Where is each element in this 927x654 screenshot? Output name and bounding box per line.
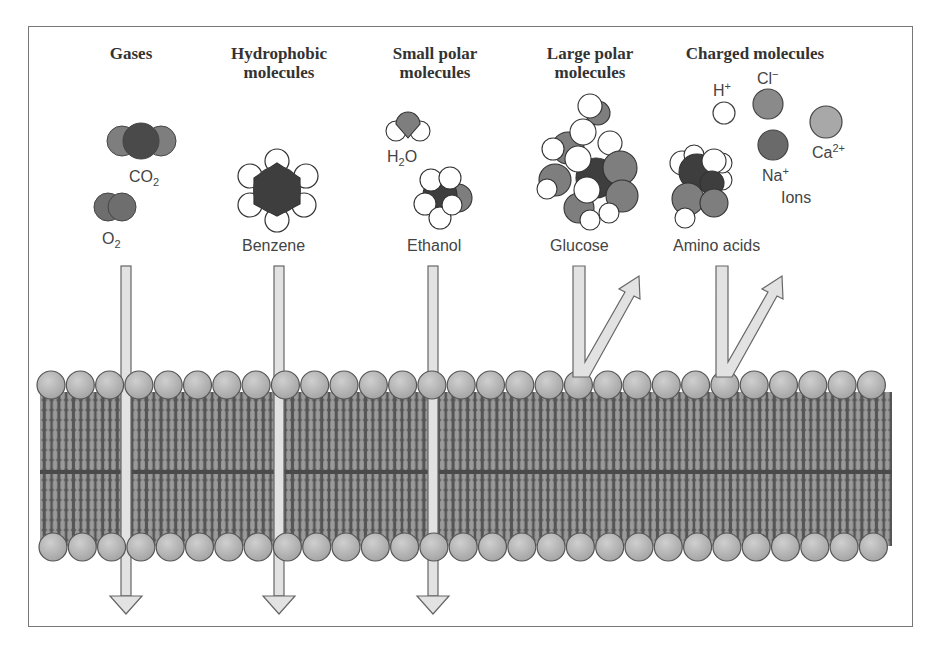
phospholipid-head-icon (859, 533, 887, 561)
amino-acid-molecule-icon (670, 145, 732, 228)
phospholipid-head-icon (535, 371, 563, 399)
phospholipid-head-icon (625, 533, 653, 561)
phospholipid-head-icon (330, 371, 358, 399)
sodium-ion-icon (758, 130, 788, 160)
header-hydrophobic-line1: Hydrophobic (224, 44, 334, 63)
phospholipid-head-icon (359, 371, 387, 399)
phospholipid-head-icon (186, 533, 214, 561)
phospholipid-head-icon (477, 371, 505, 399)
phospholipid-head-icon (98, 533, 126, 561)
header-small-polar-line2: molecules (380, 63, 490, 82)
benzene-molecule-icon (238, 149, 318, 232)
label-ions: Ions (781, 189, 811, 207)
header-small-polar: Small polar molecules (380, 44, 490, 82)
phospholipid-head-icon (242, 371, 270, 399)
phospholipid-head-icon (391, 533, 419, 561)
ethanol-molecule-icon (414, 167, 472, 229)
chloride-ion-icon (753, 89, 783, 119)
phospholipid-head-icon (215, 533, 243, 561)
header-large-polar-line2: molecules (535, 63, 645, 82)
header-large-polar-line1: Large polar (535, 44, 645, 63)
phospholipid-head-icon (154, 371, 182, 399)
phospholipid-head-icon (684, 533, 712, 561)
label-sodium-ion: Na+ (762, 165, 789, 185)
phospholipid-head-icon (830, 533, 858, 561)
phospholipid-head-icon (799, 371, 827, 399)
water-molecule-icon (386, 112, 430, 141)
phospholipid-head-icon (537, 533, 565, 561)
label-benzene: Benzene (242, 237, 305, 255)
label-calcium-ion: Ca2+ (812, 142, 845, 162)
label-co2: CO2 (129, 168, 159, 188)
phospholipid-head-icon (332, 533, 360, 561)
label-glucose: Glucose (550, 237, 609, 255)
phospholipid-head-icon (39, 533, 67, 561)
phospholipid-head-icon (654, 533, 682, 561)
phospholipid-head-icon (37, 371, 65, 399)
phospholipid-head-icon (273, 533, 301, 561)
phospholipid-head-icon (447, 371, 475, 399)
label-amino-acids: Amino acids (673, 237, 760, 255)
phospholipid-head-icon (828, 371, 856, 399)
label-o2: O2 (102, 230, 121, 250)
header-hydrophobic-line2: molecules (224, 63, 334, 82)
phospholipid-head-icon (420, 533, 448, 561)
o2-molecule-icon (94, 193, 136, 221)
phospholipid-head-icon (418, 371, 446, 399)
header-gases: Gases (96, 44, 166, 63)
co2-molecule-icon (107, 123, 176, 159)
phospholipid-head-icon (682, 371, 710, 399)
phospholipid-head-icon (506, 371, 534, 399)
rebound-arrow-icon-glucose (573, 266, 640, 377)
phospholipid-head-icon (213, 371, 241, 399)
phospholipid-head-icon (772, 533, 800, 561)
phospholipid-head-icon (508, 533, 536, 561)
phospholipid-head-icon (66, 371, 94, 399)
header-large-polar: Large polar molecules (535, 44, 645, 82)
phospholipid-head-icon (566, 533, 594, 561)
rebound-arrow-icon-amino-acids (716, 266, 783, 377)
phospholipid-head-icon (125, 371, 153, 399)
label-ethanol: Ethanol (407, 237, 461, 255)
phospholipid-head-icon (361, 533, 389, 561)
phospholipid-head-icon (770, 371, 798, 399)
phospholipid-head-icon (857, 371, 885, 399)
phospholipid-head-icon (801, 533, 829, 561)
phospholipid-head-icon (623, 371, 651, 399)
label-chloride-ion: Cl− (757, 68, 779, 88)
phospholipid-head-icon (713, 533, 741, 561)
rebound-arrows (573, 266, 783, 377)
label-hydrogen-ion: H+ (713, 80, 731, 100)
phospholipid-head-icon (740, 371, 768, 399)
header-small-polar-line1: Small polar (380, 44, 490, 63)
hydrogen-ion-icon (713, 102, 735, 124)
bilayer-tails (40, 392, 892, 546)
phospholipid-head-icon (156, 533, 184, 561)
phospholipid-head-icon (271, 371, 299, 399)
membrane-diagram (0, 0, 927, 654)
phospholipid-head-icon (742, 533, 770, 561)
phospholipid-head-icon (303, 533, 331, 561)
phospholipid-head-icon (652, 371, 680, 399)
phospholipid-head-icon (301, 371, 329, 399)
header-charged: Charged molecules (665, 44, 845, 63)
phospholipid-head-icon (96, 371, 124, 399)
phospholipid-head-icon (596, 533, 624, 561)
phospholipid-head-icon (389, 371, 417, 399)
phospholipid-head-icon (449, 533, 477, 561)
phospholipid-head-icon (479, 533, 507, 561)
header-hydrophobic: Hydrophobic molecules (224, 44, 334, 82)
phospholipid-head-icon (184, 371, 212, 399)
phospholipid-head-icon (68, 533, 96, 561)
label-water: H2O (387, 148, 417, 168)
glucose-molecule-icon (537, 94, 638, 230)
calcium-ion-icon (810, 106, 842, 138)
phospholipid-head-icon (594, 371, 622, 399)
phospholipid-head-icon (244, 533, 272, 561)
phospholipid-head-icon (127, 533, 155, 561)
